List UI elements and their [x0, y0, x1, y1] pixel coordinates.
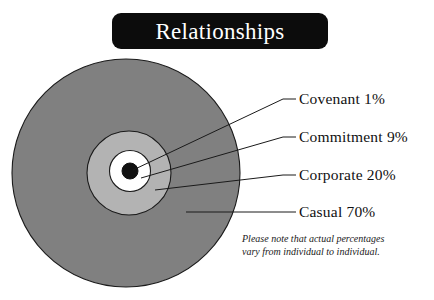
chart-label-commitment: Commitment 9% [299, 128, 408, 146]
footnote: Please note that actual percentages vary… [242, 232, 432, 258]
footnote-line-1: Please note that actual percentages [242, 232, 432, 245]
relationships-diagram-page: Relationships Covenant 1% Commitment 9% … [0, 0, 434, 300]
footnote-line-2: vary from individual to individual. [242, 245, 432, 258]
segment-covenant [122, 163, 138, 179]
chart-label-covenant: Covenant 1% [299, 90, 385, 108]
chart-label-corporate: Corporate 20% [299, 166, 396, 184]
chart-label-casual: Casual 70% [299, 203, 375, 221]
